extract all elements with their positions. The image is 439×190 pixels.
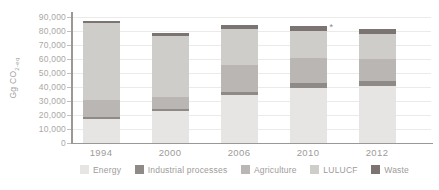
legend-item-waste: Waste xyxy=(371,165,409,175)
y-tick-label: 80,000 xyxy=(0,26,66,36)
bar-segment-industrial-processes xyxy=(359,81,396,87)
bar-1994 xyxy=(83,0,120,143)
bar-2006 xyxy=(221,0,258,143)
bar-segment-lulucf xyxy=(221,29,258,65)
y-tick-label: 90,000 xyxy=(0,12,66,22)
bar-segment-energy xyxy=(359,86,396,143)
bar-segment-lulucf xyxy=(152,36,189,98)
bar-segment-agriculture xyxy=(221,65,258,92)
y-tick-label: 70,000 xyxy=(0,40,66,50)
bar-segment-industrial-processes xyxy=(152,109,189,112)
y-tick-label: 30,000 xyxy=(0,96,66,106)
bar-2012 xyxy=(359,0,396,143)
bar-segment-waste xyxy=(290,26,327,31)
bar-segment-agriculture xyxy=(290,58,327,83)
legend-item-energy: Energy xyxy=(80,165,121,175)
bar-segment-energy xyxy=(83,119,120,143)
legend-label: Waste xyxy=(384,165,409,175)
bar-segment-agriculture xyxy=(152,97,189,108)
stacked-bar-chart-figure: Gg CO2-eq 010,00020,00030,00040,00050,00… xyxy=(0,0,439,190)
y-tick-label: 40,000 xyxy=(0,82,66,92)
y-tick-label: 0 xyxy=(0,138,66,148)
y-tick-label: 60,000 xyxy=(0,54,66,64)
bar-segment-waste xyxy=(152,33,189,36)
y-tick-label: 20,000 xyxy=(0,110,66,120)
y-axis-line xyxy=(71,12,73,144)
bar-segment-waste xyxy=(83,21,120,23)
bar-2010 xyxy=(290,0,327,143)
bar-segment-energy xyxy=(290,88,327,143)
y-tick-label: 50,000 xyxy=(0,68,66,78)
legend-item-lulucf: LULUCF xyxy=(310,165,357,175)
bar-segment-waste xyxy=(221,25,258,29)
legend-swatch-icon xyxy=(241,165,250,174)
y-tick-label: 10,000 xyxy=(0,124,66,134)
legend-label: Industrial processes xyxy=(148,165,228,175)
annotation-asterisk: * xyxy=(330,22,334,32)
x-axis-label-2012: 2012 xyxy=(352,147,402,158)
legend-label: Energy xyxy=(93,165,121,175)
bar-2000 xyxy=(152,0,189,143)
legend-item-industrial-processes: Industrial processes xyxy=(135,165,228,175)
bar-segment-industrial-processes xyxy=(290,83,327,87)
bar-segment-lulucf xyxy=(290,31,327,58)
bar-segment-lulucf xyxy=(83,23,120,99)
legend-label: Agriculture xyxy=(254,165,297,175)
bar-segment-waste xyxy=(359,29,396,35)
legend: EnergyIndustrial processesAgricultureLUL… xyxy=(80,162,409,177)
bar-segment-industrial-processes xyxy=(83,117,120,119)
x-axis-label-2010: 2010 xyxy=(283,147,333,158)
x-axis-label-1994: 1994 xyxy=(76,147,126,158)
bar-segment-agriculture xyxy=(83,100,120,118)
bar-segment-energy xyxy=(221,95,258,143)
legend-swatch-icon xyxy=(135,165,144,174)
bar-segment-lulucf xyxy=(359,34,396,59)
x-axis-label-2006: 2006 xyxy=(214,147,264,158)
legend-swatch-icon xyxy=(310,165,319,174)
legend-label: LULUCF xyxy=(323,165,357,175)
bar-segment-agriculture xyxy=(359,59,396,81)
legend-swatch-icon xyxy=(371,165,380,174)
bar-segment-energy xyxy=(152,111,189,143)
x-axis-label-2000: 2000 xyxy=(145,147,195,158)
legend-item-agriculture: Agriculture xyxy=(241,165,297,175)
legend-swatch-icon xyxy=(80,165,89,174)
bar-segment-industrial-processes xyxy=(221,92,258,96)
